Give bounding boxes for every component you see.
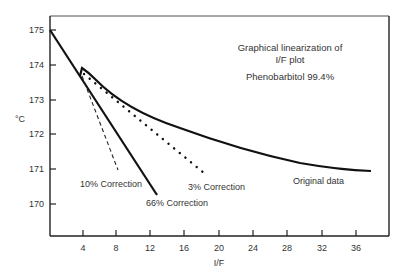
y-tick-173: 173 (29, 95, 44, 105)
annotation-10-percent: 10% Correction (80, 179, 142, 189)
x-tick-4: 4 (80, 243, 85, 253)
series-10-percent-correction (82, 76, 118, 170)
y-tick-170: 170 (29, 199, 44, 209)
chart-title-line2: I/F plot (275, 54, 304, 65)
chart-title-line1: Graphical linearization of (238, 42, 343, 53)
y-axis-tick-labels: 175 174 173 172 171 170 (29, 25, 44, 209)
y-tick-174: 174 (29, 60, 44, 70)
x-axis-label: I/F (214, 258, 225, 268)
chart-subtitle: Phenobarbitol 99.4% (246, 71, 335, 82)
annotation-3-percent: 3% Correction (188, 182, 245, 192)
x-tick-12: 12 (145, 243, 155, 253)
x-tick-36: 36 (351, 243, 361, 253)
x-tick-32: 32 (317, 243, 327, 253)
y-axis-label: °C (15, 114, 26, 124)
series-original-data (80, 68, 371, 171)
series-3-percent-correction (84, 74, 204, 173)
x-tick-8: 8 (113, 243, 118, 253)
y-axis-ticks (50, 30, 56, 204)
annotation-original-data: Original data (293, 176, 344, 186)
y-tick-175: 175 (29, 25, 44, 35)
x-axis-ticks (83, 230, 356, 236)
x-axis-tick-labels: 4 8 12 16 20 24 28 32 36 (80, 243, 361, 253)
annotation-66-percent: 66% Correction (146, 198, 208, 208)
x-tick-28: 28 (282, 243, 292, 253)
chart: 175 174 173 172 171 170 °C 4 8 12 16 20 … (0, 0, 404, 275)
x-tick-20: 20 (214, 243, 224, 253)
y-tick-172: 172 (29, 129, 44, 139)
x-tick-24: 24 (248, 243, 258, 253)
y-tick-171: 171 (29, 164, 44, 174)
x-tick-16: 16 (179, 243, 189, 253)
